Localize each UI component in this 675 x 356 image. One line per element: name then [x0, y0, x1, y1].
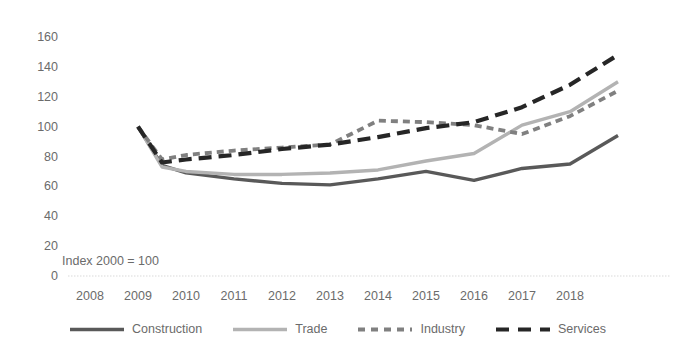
index-annotation: Index 2000 = 100 [62, 254, 159, 268]
legend-item-services[interactable]: Services [495, 322, 606, 336]
chart-legend: ConstructionTradeIndustryServices [0, 322, 675, 336]
series-line-industry [138, 91, 618, 160]
legend-swatch-industry-icon [357, 324, 413, 335]
legend-item-trade[interactable]: Trade [232, 322, 327, 336]
legend-item-industry[interactable]: Industry [357, 322, 464, 336]
legend-swatch-construction-icon [69, 324, 125, 335]
legend-label: Trade [295, 322, 327, 336]
plot-area [0, 0, 675, 356]
legend-label: Industry [420, 322, 464, 336]
legend-label: Construction [132, 322, 202, 336]
legend-swatch-services-icon [495, 324, 551, 335]
line-chart: 160140120100806040200 200820092010201120… [0, 0, 675, 356]
legend-label: Services [558, 322, 606, 336]
series-line-trade [138, 82, 618, 175]
series-line-services [138, 55, 618, 163]
legend-swatch-trade-icon [232, 324, 288, 335]
legend-item-construction[interactable]: Construction [69, 322, 202, 336]
